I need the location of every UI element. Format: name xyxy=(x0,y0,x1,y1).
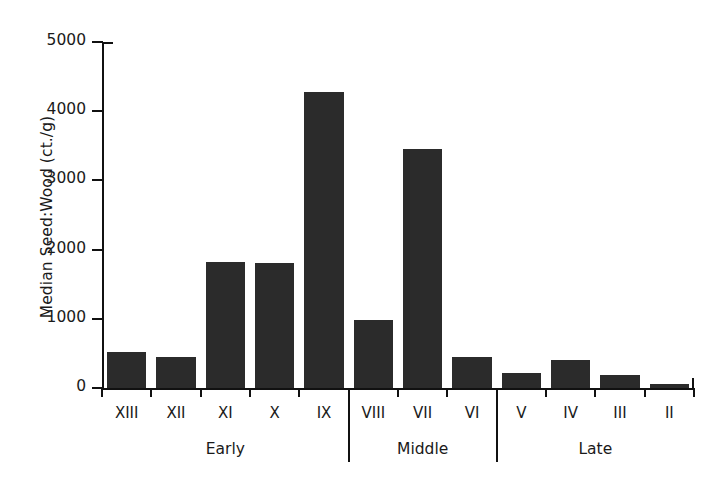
y-axis-top-cap xyxy=(102,42,113,44)
x-axis-tick xyxy=(693,388,695,397)
group-divider xyxy=(496,390,498,462)
x-axis-tick xyxy=(101,388,103,397)
y-axis-tick-label: 3000 xyxy=(47,169,86,187)
y-axis-tick xyxy=(92,318,103,320)
bar[interactable] xyxy=(403,149,442,388)
x-axis-tick xyxy=(150,388,152,397)
x-axis-category-label: VI xyxy=(447,404,496,422)
bar[interactable] xyxy=(206,262,245,388)
x-axis-category-label: XIII xyxy=(102,404,151,422)
x-axis-category-label: VIII xyxy=(349,404,398,422)
group-label-early: Early xyxy=(102,440,349,458)
y-axis-tick xyxy=(92,41,103,43)
group-label-late: Late xyxy=(497,440,694,458)
y-axis-tick-label: 5000 xyxy=(47,31,86,49)
x-axis-tick xyxy=(446,388,448,397)
bar[interactable] xyxy=(304,92,343,388)
x-axis-tick xyxy=(249,388,251,397)
bar[interactable] xyxy=(650,384,689,388)
bar[interactable] xyxy=(551,360,590,388)
x-axis-category-label: III xyxy=(595,404,644,422)
x-axis-category-label: IV xyxy=(546,404,595,422)
bar[interactable] xyxy=(156,357,195,388)
x-axis-category-label: X xyxy=(250,404,299,422)
group-label-middle: Middle xyxy=(349,440,497,458)
x-axis-tick xyxy=(200,388,202,397)
x-axis-category-label: VII xyxy=(398,404,447,422)
plot-area xyxy=(102,42,694,388)
y-axis-tick xyxy=(92,249,103,251)
bar[interactable] xyxy=(107,352,146,388)
y-axis-line xyxy=(102,42,104,388)
y-axis-tick-label: 1000 xyxy=(47,308,86,326)
x-axis-tick xyxy=(594,388,596,397)
bar[interactable] xyxy=(255,263,294,388)
bar[interactable] xyxy=(600,375,639,388)
bar-chart-figure: Median Seed:Wood (ct./g) XIIIXIIXIXIXVII… xyxy=(0,0,720,484)
x-axis-tick xyxy=(298,388,300,397)
x-axis-category-label: XI xyxy=(201,404,250,422)
y-axis-tick-label: 2000 xyxy=(47,239,86,257)
y-axis-tick xyxy=(92,179,103,181)
x-axis-tick xyxy=(644,388,646,397)
x-axis-category-label: II xyxy=(645,404,694,422)
bar[interactable] xyxy=(452,357,491,388)
x-axis-tick xyxy=(397,388,399,397)
y-axis-tick xyxy=(92,110,103,112)
y-axis-tick-label: 4000 xyxy=(47,100,86,118)
x-axis-tick xyxy=(545,388,547,397)
x-axis-category-label: V xyxy=(497,404,546,422)
bar[interactable] xyxy=(502,373,541,388)
bar[interactable] xyxy=(354,320,393,388)
x-axis-category-label: XII xyxy=(151,404,200,422)
x-axis-category-label: IX xyxy=(299,404,348,422)
group-divider xyxy=(348,390,350,462)
y-axis-tick-label: 0 xyxy=(76,377,86,395)
